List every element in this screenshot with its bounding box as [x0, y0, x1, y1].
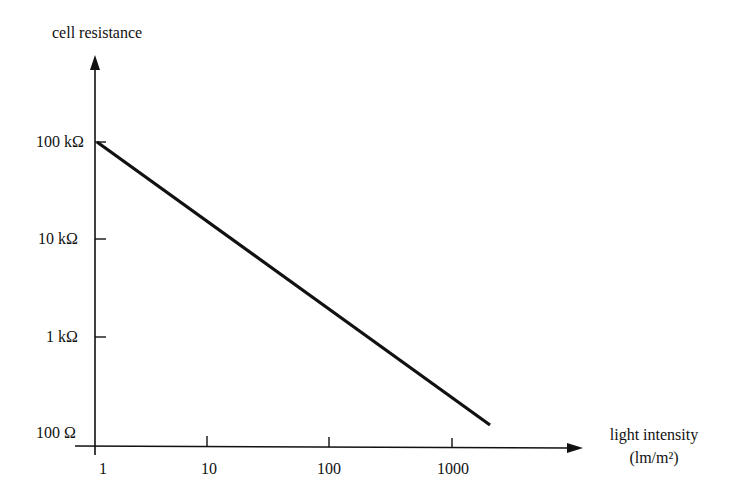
y-axis-arrow-icon — [90, 55, 100, 70]
x-tick-label-1: 1 — [73, 460, 133, 478]
x-tick-label-10: 10 — [179, 460, 239, 478]
y-tick-label-100: 100 Ω — [6, 424, 76, 442]
y-axis-label: cell resistance — [52, 24, 142, 42]
x-axis-label: light intensity — [594, 426, 714, 444]
x-axis-unit: (lm/m²) — [594, 449, 714, 467]
y-tick-label-100k: 100 kΩ — [14, 133, 84, 151]
y-tick-label-1k: 1 kΩ — [8, 328, 78, 346]
x-tick-label-1000: 1000 — [423, 460, 483, 478]
x-axis — [75, 446, 570, 448]
y-tick-label-10k: 10 kΩ — [8, 230, 78, 248]
data-line — [97, 142, 490, 425]
x-tick-label-100: 100 — [299, 460, 359, 478]
x-axis-arrow-icon — [567, 443, 583, 453]
